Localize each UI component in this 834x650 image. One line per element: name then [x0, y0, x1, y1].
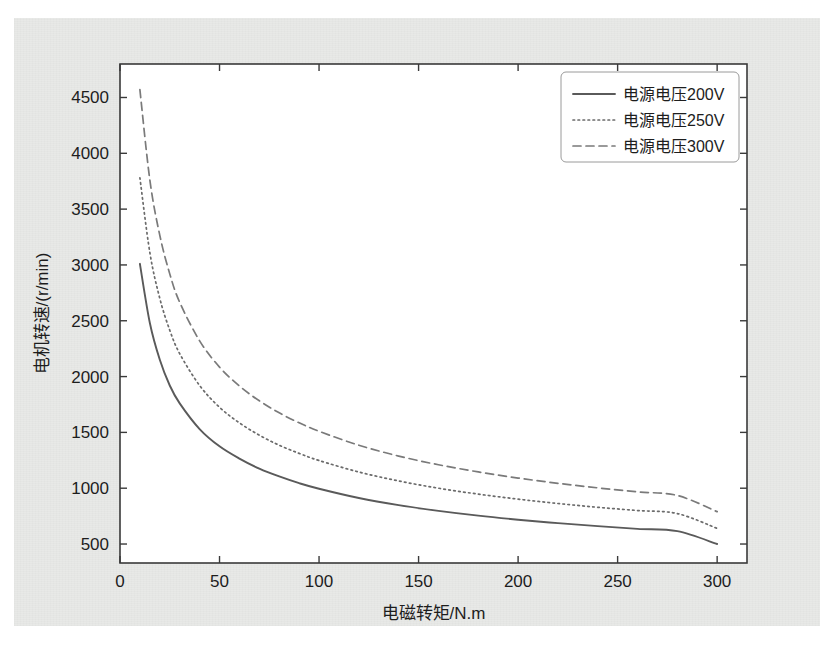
- x-tick-label: 200: [504, 572, 532, 591]
- legend-label-1: 电源电压250V: [623, 112, 725, 129]
- x-tick-label: 150: [404, 572, 432, 591]
- speed-torque-chart: 0501001502002503005001000150020002500300…: [14, 18, 820, 626]
- legend-label-0: 电源电压200V: [623, 86, 725, 103]
- y-tick-label: 1000: [71, 479, 109, 498]
- x-tick-label: 250: [603, 572, 631, 591]
- y-tick-label: 4500: [71, 88, 109, 107]
- legend-label-2: 电源电压300V: [623, 138, 725, 155]
- y-tick-label: 2500: [71, 312, 109, 331]
- y-tick-label: 1500: [71, 423, 109, 442]
- x-axis-title: 电磁转矩/N.m: [382, 604, 486, 623]
- plot-area-wrapper: 0501001502002503005001000150020002500300…: [14, 18, 820, 626]
- figure-panel: 0501001502002503005001000150020002500300…: [14, 18, 820, 626]
- x-tick-label: 50: [210, 572, 229, 591]
- y-tick-label: 2000: [71, 368, 109, 387]
- x-tick-label: 0: [115, 572, 124, 591]
- y-axis-title: 电机转速/(r/min): [33, 253, 52, 375]
- x-tick-label: 100: [305, 572, 333, 591]
- y-tick-label: 3000: [71, 256, 109, 275]
- y-tick-label: 4000: [71, 144, 109, 163]
- y-tick-label: 500: [81, 535, 109, 554]
- y-tick-label: 3500: [71, 200, 109, 219]
- x-tick-label: 300: [703, 572, 731, 591]
